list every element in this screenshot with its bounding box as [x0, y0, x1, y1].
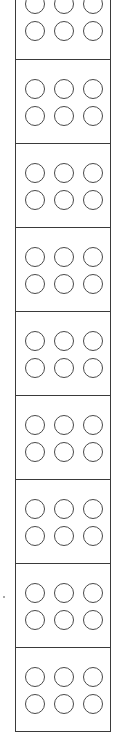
- circle-icon: [83, 667, 103, 687]
- circle-icon: [54, 526, 74, 546]
- circle-icon: [25, 583, 45, 603]
- circle-grid: [25, 163, 103, 210]
- circle-icon: [25, 79, 45, 99]
- circle-icon: [83, 331, 103, 351]
- circle-icon: [83, 106, 103, 126]
- circle-icon: [25, 163, 45, 183]
- circle-icon: [83, 610, 103, 630]
- circle-icon: [83, 0, 103, 14]
- module-cell: [16, 311, 110, 395]
- circle-grid: [25, 0, 103, 41]
- circle-icon: [83, 163, 103, 183]
- circle-icon: [54, 0, 74, 14]
- reference-mark: [3, 596, 5, 598]
- circle-icon: [83, 526, 103, 546]
- circle-icon: [54, 694, 74, 714]
- module-cell: [16, 647, 110, 731]
- circle-grid: [25, 499, 103, 546]
- circle-icon: [54, 247, 74, 267]
- circle-icon: [25, 415, 45, 435]
- circle-icon: [54, 79, 74, 99]
- module-cell: [16, 479, 110, 563]
- circle-grid: [25, 247, 103, 294]
- circle-grid: [25, 667, 103, 714]
- circle-icon: [25, 442, 45, 462]
- circle-icon: [25, 610, 45, 630]
- circle-icon: [54, 442, 74, 462]
- circle-icon: [54, 358, 74, 378]
- circle-grid: [25, 415, 103, 462]
- module-cell: [16, 143, 110, 227]
- circle-icon: [25, 247, 45, 267]
- circle-icon: [83, 358, 103, 378]
- circle-icon: [25, 21, 45, 41]
- module-strip: [15, 0, 111, 732]
- circle-icon: [25, 274, 45, 294]
- circle-grid: [25, 583, 103, 630]
- circle-icon: [25, 694, 45, 714]
- circle-grid: [25, 331, 103, 378]
- circle-icon: [25, 667, 45, 687]
- circle-icon: [25, 106, 45, 126]
- circle-icon: [54, 499, 74, 519]
- circle-icon: [25, 499, 45, 519]
- circle-icon: [83, 274, 103, 294]
- module-cell: [16, 395, 110, 479]
- circle-icon: [54, 583, 74, 603]
- circle-icon: [83, 79, 103, 99]
- circle-icon: [83, 190, 103, 210]
- circle-icon: [83, 499, 103, 519]
- module-cell: [16, 59, 110, 143]
- module-cell: [16, 227, 110, 311]
- circle-grid: [25, 79, 103, 126]
- circle-icon: [25, 0, 45, 14]
- circle-icon: [25, 358, 45, 378]
- circle-icon: [54, 106, 74, 126]
- circle-icon: [25, 190, 45, 210]
- circle-icon: [54, 163, 74, 183]
- circle-icon: [54, 274, 74, 294]
- circle-icon: [54, 667, 74, 687]
- circle-icon: [54, 331, 74, 351]
- circle-icon: [25, 526, 45, 546]
- circle-icon: [83, 442, 103, 462]
- circle-icon: [25, 331, 45, 351]
- module-cell: [16, 0, 110, 59]
- circle-icon: [83, 583, 103, 603]
- circle-icon: [54, 610, 74, 630]
- circle-icon: [83, 415, 103, 435]
- module-cell: [16, 563, 110, 647]
- circle-icon: [54, 21, 74, 41]
- circle-icon: [83, 21, 103, 41]
- circle-icon: [54, 415, 74, 435]
- circle-icon: [83, 694, 103, 714]
- circle-icon: [83, 247, 103, 267]
- circle-icon: [54, 190, 74, 210]
